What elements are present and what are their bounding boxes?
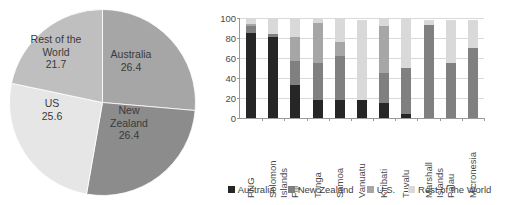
legend-swatch-icon [367, 186, 374, 193]
legend-label: U.S. [377, 184, 395, 195]
bar-group[interactable] [357, 18, 367, 118]
bar-group[interactable] [401, 18, 411, 118]
bar-segment [401, 68, 411, 114]
legend-item[interactable]: Rest of the World [408, 184, 491, 195]
bar-chart-plot-area: 020406080100 PNGSolomon IslandsFijiTonga… [240, 18, 484, 118]
x-axis-tick-mark [484, 118, 485, 121]
chart-legend: AustraliaNew ZealandU.S.Rest of the Worl… [210, 184, 509, 195]
bar-chart-panel: 020406080100 PNGSolomon IslandsFijiTonga… [210, 0, 509, 205]
bar-stack [335, 18, 345, 118]
bar-group[interactable] [424, 18, 434, 118]
bar-segment [446, 63, 456, 118]
bar-stack [424, 20, 434, 118]
pie-chart [9, 9, 196, 196]
bar-group[interactable] [446, 18, 456, 118]
bar-group[interactable] [379, 18, 389, 118]
x-axis-tick-mark [307, 118, 308, 121]
y-axis-tick-label: 100 [220, 13, 236, 24]
bar-group[interactable] [335, 18, 345, 118]
bar-stack [379, 18, 389, 118]
bar-segment [246, 26, 256, 33]
bar-segment [379, 103, 389, 118]
bar-segment [357, 100, 367, 118]
y-axis-line [239, 18, 240, 119]
pie-chart-panel: Rest of the World 21.7 Australia 26.4 Ne… [0, 0, 210, 205]
legend-swatch-icon [408, 186, 415, 193]
bar-segment [313, 23, 323, 63]
figure-container: Rest of the World 21.7 Australia 26.4 Ne… [0, 0, 509, 205]
legend-label: Australia [238, 184, 275, 195]
bar-stack [290, 18, 300, 118]
bar-segment [335, 100, 345, 118]
legend-item[interactable]: Australia [228, 184, 275, 195]
legend-item[interactable]: New Zealand [288, 184, 354, 195]
y-axis-tick-mark [237, 58, 240, 59]
bar-stack [446, 20, 456, 118]
y-axis-tick-label: 40 [225, 73, 236, 84]
bar-segment [468, 48, 478, 118]
y-axis-tick-mark [237, 18, 240, 19]
x-axis-tick-mark [440, 118, 441, 121]
legend-label: Rest of the World [418, 184, 491, 195]
bar-segment [290, 37, 300, 61]
bar-segment [357, 20, 367, 100]
bar-segment [379, 73, 389, 103]
bar-segment [335, 56, 345, 100]
y-axis-tick-mark [237, 78, 240, 79]
bar-segment [290, 61, 300, 85]
y-axis-tick-label: 60 [225, 53, 236, 64]
bar-segment [268, 37, 278, 118]
x-axis-line [240, 118, 484, 119]
bar-segment [313, 100, 323, 118]
bar-segment [290, 18, 300, 37]
x-axis-tick-mark [262, 118, 263, 121]
x-axis-tick-mark [462, 118, 463, 121]
bar-group[interactable] [313, 18, 323, 118]
y-axis-tick-label: 80 [225, 33, 236, 44]
bar-stack [313, 18, 323, 118]
bar-group[interactable] [468, 18, 478, 118]
bar-segment [401, 114, 411, 118]
y-axis-tick-mark [237, 38, 240, 39]
x-axis-tick-mark [329, 118, 330, 121]
bar-segment [468, 20, 478, 48]
bar-group[interactable] [246, 18, 256, 118]
legend-item[interactable]: U.S. [367, 184, 395, 195]
bar-segment [313, 63, 323, 100]
x-axis-tick-mark [395, 118, 396, 121]
bar-segment [446, 20, 456, 63]
bar-stack [401, 18, 411, 118]
y-axis-tick-label: 0 [231, 113, 236, 124]
bar-stack [268, 18, 278, 118]
pie-slice-new-zealand [87, 103, 196, 196]
legend-swatch-icon [228, 186, 235, 193]
bar-group[interactable] [290, 18, 300, 118]
pie-slice-australia [103, 10, 196, 111]
bar-segment [268, 18, 278, 34]
bar-segment [379, 26, 389, 73]
bar-group[interactable] [268, 18, 278, 118]
bar-segment [246, 33, 256, 118]
y-axis-tick-mark [237, 98, 240, 99]
bar-stack [357, 20, 367, 118]
bar-segment [379, 18, 389, 26]
bar-segment [290, 85, 300, 118]
bar-segment [335, 18, 345, 42]
bar-segment [424, 25, 434, 118]
bar-stack [468, 20, 478, 118]
bar-segment [401, 18, 411, 68]
x-axis-tick-mark [284, 118, 285, 121]
x-axis-tick-mark [417, 118, 418, 121]
x-axis-tick-mark [351, 118, 352, 121]
x-axis-tick-mark [373, 118, 374, 121]
legend-swatch-icon [288, 186, 295, 193]
bar-stack [246, 18, 256, 118]
legend-label: New Zealand [298, 184, 354, 195]
bar-segment [335, 42, 345, 56]
y-axis-tick-label: 20 [225, 93, 236, 104]
y-axis-tick-mark [237, 118, 240, 119]
